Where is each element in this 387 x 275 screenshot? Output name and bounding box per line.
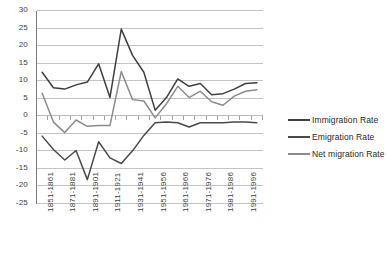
legend-item-label: Immigration Rate (312, 115, 378, 125)
y-axis-tick-label: -5 (2, 129, 28, 137)
y-axis-tick-label: 30 (2, 6, 28, 14)
legend-item: Immigration Rate (288, 112, 387, 127)
y-axis-tick-label: -20 (2, 181, 28, 189)
x-axis-tick-label: 1991-1996 (249, 171, 258, 211)
x-axis-tick-label: 1851-1861 (46, 171, 55, 211)
x-axis-tick-marks (37, 116, 263, 120)
y-axis-tick-label: -10 (2, 146, 28, 154)
x-axis-tick-label: 1891-1901 (91, 171, 100, 211)
data-series-group (42, 29, 257, 180)
y-axis-tick-label: 20 (2, 41, 28, 49)
legend-line-swatch-icon (288, 153, 310, 155)
x-axis-tick-label: 1911-1921 (113, 172, 122, 211)
y-axis-tick-label: 0 (2, 111, 28, 119)
x-axis-tick-label: 1961-1966 (181, 171, 190, 211)
migration-rate-line-chart: 302520151050-5-10-15-20-25 1851-18611871… (0, 0, 387, 275)
x-axis-tick-label: 1931-1941 (136, 171, 145, 211)
legend-item: Net migration Rate (288, 146, 387, 161)
y-axis-tick-label: -15 (2, 164, 28, 172)
y-axis-tick-label: 5 (2, 94, 28, 102)
legend-item: Emigration Rate (288, 129, 387, 144)
y-axis-tick-label: 15 (2, 59, 28, 67)
chart-legend: Immigration RateEmigration RateNet migra… (288, 112, 387, 163)
legend-item-label: Emigration Rate (312, 132, 374, 142)
x-axis-tick-label: 1871-1881 (68, 171, 77, 211)
y-axis-tick-label: 25 (2, 24, 28, 32)
x-axis-tick-label: 1981-1986 (226, 171, 235, 211)
legend-item-label: Net migration Rate (312, 149, 385, 159)
x-axis-tick-label: 1951-1956 (159, 171, 168, 211)
legend-line-swatch-icon (288, 119, 310, 121)
y-axis-tick-label: 10 (2, 76, 28, 84)
x-axis-tick-label: 1971-1976 (204, 171, 213, 211)
legend-line-swatch-icon (288, 136, 310, 138)
y-axis-tick-label: -25 (2, 199, 28, 207)
